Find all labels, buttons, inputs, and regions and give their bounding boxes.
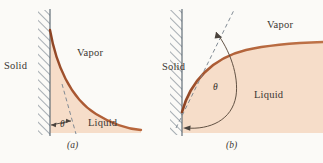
panel-b: Solid Vapor Liquid θ (b) — [160, 0, 323, 163]
liquid-region-b — [182, 42, 323, 133]
liquid-label-b: Liquid — [254, 90, 283, 101]
solid-label-b: Solid — [162, 62, 185, 73]
solid-label-a: Solid — [4, 61, 27, 72]
theta-symbol-b: θ — [213, 83, 218, 93]
vapor-label-b: Vapor — [267, 20, 293, 31]
liquid-label-a: Liquid — [88, 118, 117, 129]
solid-wall-hatch-a — [38, 10, 50, 135]
vapor-label-a: Vapor — [77, 48, 103, 59]
panel-b-drawing — [160, 0, 323, 163]
theta-symbol-a: θ — [60, 120, 65, 130]
panel-caption-a: (a) — [67, 140, 78, 150]
panel-a-drawing — [0, 0, 160, 163]
contact-angle-figure: Solid Vapor Liquid θ (a) — [0, 0, 323, 163]
solid-wall-hatch-b — [170, 10, 182, 135]
panel-caption-b: (b) — [226, 140, 237, 150]
angle-arrowhead-top-b — [215, 32, 223, 39]
panel-a: Solid Vapor Liquid θ (a) — [0, 0, 160, 163]
